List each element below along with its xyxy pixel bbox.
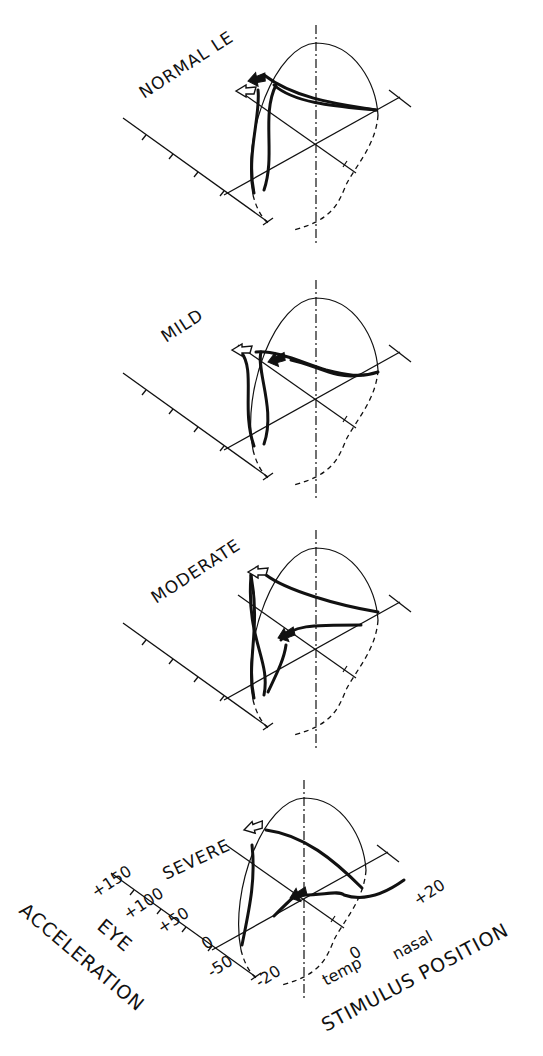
panel-title: SEVERE	[159, 835, 233, 884]
panel-title: MILD	[157, 304, 207, 346]
stimulus-direction-temporal: temp	[319, 953, 365, 989]
panel-title: NORMAL LE	[135, 27, 237, 103]
panel-frame	[123, 280, 411, 500]
filled-arrow-icon	[276, 625, 298, 644]
panel-severe: SEVERE +150 +100 +50 0 -50 EYE ACCELERAT…	[15, 780, 512, 1036]
open-arrow-icon	[232, 344, 252, 356]
panel-title: MODERATE	[147, 535, 244, 608]
accel-tick-label: -50	[204, 951, 236, 981]
accel-tick-label: 0	[198, 932, 217, 953]
figure-canvas: NORMAL LE MILD MODERATE SEVERE +150	[0, 0, 543, 1056]
stimulus-tick-label: +20	[410, 875, 449, 909]
panel-frame	[123, 530, 411, 750]
panel-normal: NORMAL LE	[123, 25, 411, 245]
accel-tick-label: +150	[88, 861, 135, 901]
panel-frame	[123, 25, 411, 245]
stimulus-tick-label: -20	[252, 961, 284, 991]
panel-moderate: MODERATE	[123, 530, 411, 750]
open-arrow-icon	[236, 85, 256, 97]
filled-arrow-icon	[247, 71, 267, 88]
panel-mild: MILD	[123, 280, 411, 500]
